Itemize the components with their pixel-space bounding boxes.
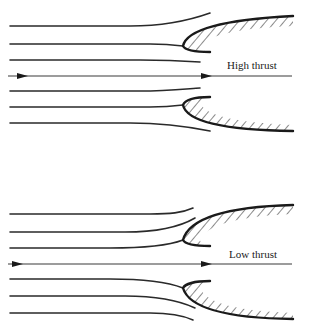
streamline-upper-3 xyxy=(10,240,183,248)
cowl-upper xyxy=(183,205,293,246)
streamline-lower-3 xyxy=(10,313,193,320)
streamline-upper-2 xyxy=(10,44,183,46)
flow-arrow-icon xyxy=(12,261,23,267)
streamline-lower-2 xyxy=(10,105,183,107)
cowl-upper xyxy=(183,16,293,52)
high-thrust-label: High thrust xyxy=(227,59,277,71)
flow-arrow-icon xyxy=(17,73,28,79)
panel-low-thrust: Low thrust xyxy=(8,205,293,320)
panel-high-thrust: High thrust xyxy=(8,13,293,131)
streamline-upper-3 xyxy=(10,60,200,62)
cowl-lower xyxy=(183,97,293,131)
streamline-lower-1 xyxy=(10,88,200,91)
cowl-lower xyxy=(183,281,293,319)
streamline-lower-1 xyxy=(10,279,183,288)
streamline-lower-3 xyxy=(10,123,210,131)
streamline-upper-1 xyxy=(10,208,193,214)
streamline-upper-2 xyxy=(10,218,195,232)
flow-arrow-icon xyxy=(201,73,212,79)
streamline-upper-1 xyxy=(10,13,210,26)
engine-inlet-flow-diagram: High thrust Low thrust xyxy=(0,0,311,336)
low-thrust-label: Low thrust xyxy=(229,248,277,260)
streamline-lower-2 xyxy=(10,296,195,308)
flow-arrow-icon xyxy=(201,261,212,267)
